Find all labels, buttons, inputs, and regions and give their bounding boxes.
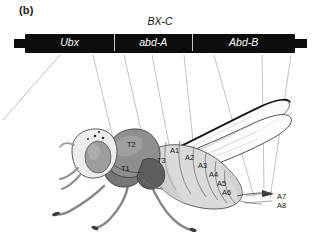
gene-label-abd-a[interactable]: abd-A — [114, 36, 192, 49]
segment-label-t1: T1 — [121, 164, 130, 173]
segment-label-t2: T2 — [127, 140, 136, 149]
eye-highlight — [88, 144, 100, 160]
segment-label-a7: A7 — [277, 192, 286, 201]
connector-line — [152, 55, 170, 150]
segment-label-a2: A2 — [185, 153, 194, 162]
segment-label-a5: A5 — [217, 179, 226, 188]
mouthparts — [60, 168, 80, 189]
fly-illustration — [52, 100, 292, 232]
segment-label-a8: A8 — [277, 201, 286, 210]
gene-divider-2 — [192, 34, 193, 51]
gene-divider-1 — [114, 34, 115, 51]
segment-label-a3: A3 — [198, 161, 207, 170]
gene-label-ubx[interactable]: Ubx — [25, 36, 114, 49]
segment-label-a1: A1 — [170, 146, 179, 155]
segment-label-a6: A6 — [222, 188, 231, 197]
leg-mid — [96, 186, 128, 228]
page-title: BX-C — [0, 15, 320, 27]
gene-label-abd-b[interactable]: Abd-B — [192, 36, 295, 49]
chromosome-cap-right — [294, 39, 307, 48]
segment-label-a4: A4 — [209, 170, 218, 179]
segment-label-t3: T3 — [157, 156, 166, 165]
leg-fore — [57, 186, 104, 214]
connector-line — [3, 55, 60, 120]
